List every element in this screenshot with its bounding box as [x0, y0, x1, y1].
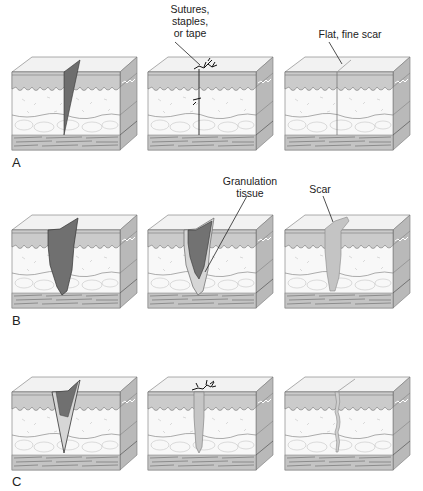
label-sutures-line2: staples, [155, 15, 225, 27]
label-sutures-line3: or tape [155, 27, 225, 39]
row-letter-c: C [12, 474, 21, 489]
label-sutures: Sutures, staples, or tape [155, 3, 225, 39]
delayed-closure-granulation [194, 392, 204, 453]
label-granulation-line2: tissue [215, 187, 285, 199]
label-granulation-line1: Granulation [215, 175, 285, 187]
skin-block-c2 [148, 377, 274, 471]
label-scar: Scar [305, 183, 335, 195]
skin-block-c1 [12, 377, 138, 471]
label-flat-fine-scar: Flat, fine scar [300, 28, 400, 40]
leader-lines-b [0, 160, 423, 260]
label-sutures-line1: Sutures, [155, 3, 225, 15]
row-letter-b: B [12, 313, 21, 328]
label-granulation-tissue: Granulation tissue [215, 175, 285, 199]
skin-block-c3 [285, 377, 411, 471]
